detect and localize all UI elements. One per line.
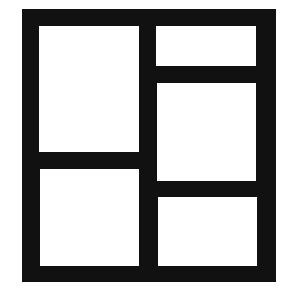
panel-right-bottom: [158, 197, 257, 266]
panel-left-bottom: [40, 169, 139, 266]
panel-right-middle: [157, 83, 256, 181]
panel-left-top: [39, 26, 139, 152]
panel-right-top: [156, 26, 256, 66]
